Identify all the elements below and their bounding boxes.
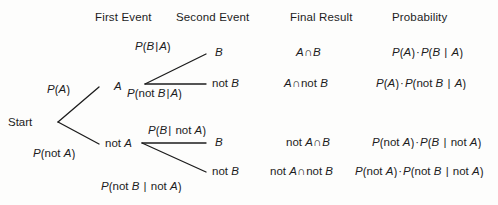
edge-label-p-b-given-a-p: P <box>135 40 143 52</box>
column-header-probability: Probability <box>392 12 447 24</box>
probability-row-4-not1: not <box>367 165 386 177</box>
probability-row-3-cond-not: not <box>451 136 470 148</box>
probability-row-3-cond: A <box>470 136 478 148</box>
node-b-lower: B <box>215 137 223 149</box>
probability-row-3-c2: ) <box>478 136 482 150</box>
edge-label-p-not-b-given-a-p: P <box>127 87 135 99</box>
probability-row-4-o1: ( <box>363 165 367 179</box>
edge-label-p-not-a-open: ( <box>41 147 45 161</box>
final-result-row-3-not-a: not <box>286 136 305 148</box>
edge-label-p-b-given-not-a-cond: A <box>195 124 203 136</box>
edge-label-p-b-given-not-a-open: ( <box>156 124 160 138</box>
probability-row-1-o2: ( <box>429 46 433 60</box>
probability-row-2-a1: A <box>388 77 396 89</box>
edge-label-p-not-b-given-not-a-p: P <box>101 180 109 192</box>
edge-label-p-a-arg: A <box>59 83 67 95</box>
edge-label-p-a-open: ( <box>55 83 59 97</box>
branch-a-to-b <box>145 54 206 84</box>
final-result-row-1-b: B <box>313 46 321 58</box>
edge-label-p-not-b-given-a-close: ) <box>178 87 182 101</box>
final-result-row-3-b: B <box>322 136 330 148</box>
probability-row-3: P(not A)·P(B | not A) <box>372 137 481 149</box>
edge-label-p-not-a-close: ) <box>71 147 75 161</box>
edge-label-p-b-given-a-close: ) <box>167 40 171 54</box>
edge-label-p-b-given-not-a: P(B| not A) <box>148 125 206 137</box>
probability-row-4-cond-not: not <box>453 165 472 177</box>
probability-row-2-o2: ( <box>413 77 417 91</box>
probability-row-4-not2: not <box>415 165 434 177</box>
intersection-icon: ∩ <box>313 136 322 148</box>
probability-row-4-cond: A <box>472 165 480 177</box>
edge-label-p-not-b-given-not-a-open: ( <box>109 180 113 194</box>
edge-label-p-not-b-given-not-a-cond-not: not <box>151 180 170 192</box>
final-result-row-4: not A∩not B <box>270 166 333 178</box>
node-not-b-lower: not B <box>212 166 239 178</box>
node-not-b-lower-var: B <box>231 165 239 177</box>
probability-row-3-a1: A <box>403 136 411 148</box>
probability-row-1-p1: P <box>392 46 400 58</box>
probability-row-1-bar: | <box>440 46 451 58</box>
probability-row-4-a1: A <box>386 165 394 177</box>
probability-row-2-p2: P <box>405 77 413 89</box>
probability-row-4-c1: ) <box>393 165 397 179</box>
probability-row-1-c2: ) <box>459 46 463 60</box>
edge-label-p-a-close: ) <box>66 83 70 97</box>
edge-label-p-not-a: P(not A) <box>33 148 75 160</box>
edge-label-p-not-a-arg: A <box>64 147 72 159</box>
node-not-b-upper-var: B <box>231 77 239 89</box>
probability-row-2-bar: | <box>443 77 454 89</box>
edge-label-p-not-b-given-a-open: ( <box>135 87 139 101</box>
probability-row-3-not1: not <box>384 136 403 148</box>
branch-not-a-to-not-b <box>142 143 206 172</box>
probability-row-1-cond: A <box>451 46 459 58</box>
probability-row-3-p1: P <box>372 136 380 148</box>
column-header-final-result: Final Result <box>290 12 353 24</box>
final-result-row-3-a: A <box>305 136 313 148</box>
edge-label-p-not-b-given-not-a-cond: A <box>170 180 178 192</box>
probability-row-2-c2: ) <box>462 77 466 91</box>
intersection-icon: ∩ <box>304 46 313 58</box>
final-result-row-4-not-a: not <box>270 165 289 177</box>
intersection-icon: ∩ <box>297 165 306 177</box>
node-not-a-not: not <box>105 137 124 149</box>
probability-row-2-c1: ) <box>395 77 399 91</box>
edge-label-p-not-b-given-not-a-not: not <box>113 180 132 192</box>
node-start: Start <box>8 117 32 129</box>
probability-row-4: P(not A)·P(not B | not A) <box>355 166 484 178</box>
edge-label-p-b-given-a: P(B|A) <box>135 41 171 53</box>
edge-label-p-b-given-not-a-close: ) <box>202 124 206 138</box>
probability-row-1: P(A)·P(B | A) <box>392 47 463 59</box>
probability-row-1-p2: P <box>421 46 429 58</box>
probability-row-4-p2: P <box>403 165 411 177</box>
edge-label-p-b-given-a-open: ( <box>143 40 147 54</box>
edge-label-p-a: P(A) <box>47 84 70 96</box>
probability-row-2-cond: A <box>455 77 463 89</box>
edge-label-p-not-b-given-a: P(not B|A) <box>127 88 182 100</box>
probability-row-2-not: not <box>416 77 435 89</box>
node-not-b-lower-not: not <box>212 165 231 177</box>
probability-row-4-p1: P <box>355 165 363 177</box>
column-header-first-event: First Event <box>95 12 152 24</box>
probability-row-2-o1: ( <box>384 77 388 91</box>
final-result-row-4-not-b: not <box>306 165 325 177</box>
edge-label-p-b-given-a-cond: A <box>159 40 167 52</box>
node-not-b-upper-not: not <box>212 77 231 89</box>
edge-label-p-not-b-given-not-a: P(not B | not A) <box>101 181 181 193</box>
final-result-row-2-a: A <box>284 77 292 89</box>
final-result-row-2-b: B <box>320 77 328 89</box>
edge-label-p-a-p: P <box>47 83 55 95</box>
probability-row-3-bar: | <box>439 136 450 148</box>
node-not-b-upper: not B <box>212 78 239 90</box>
final-result-row-2-not: not <box>301 77 320 89</box>
probability-row-3-o2: ( <box>428 136 432 150</box>
column-header-second-event: Second Event <box>176 12 249 24</box>
edge-label-p-b-given-not-a-cond-not: not <box>172 124 194 136</box>
probability-row-1-c1: ) <box>411 46 415 60</box>
node-a: A <box>114 81 122 93</box>
probability-row-1-o1: ( <box>400 46 404 60</box>
node-b-upper: B <box>215 47 223 59</box>
node-not-a-var: A <box>124 137 132 149</box>
probability-row-3-o1: ( <box>380 136 384 150</box>
branch-start-to-not-a <box>58 122 99 144</box>
probability-row-1-a2: B <box>432 46 440 58</box>
